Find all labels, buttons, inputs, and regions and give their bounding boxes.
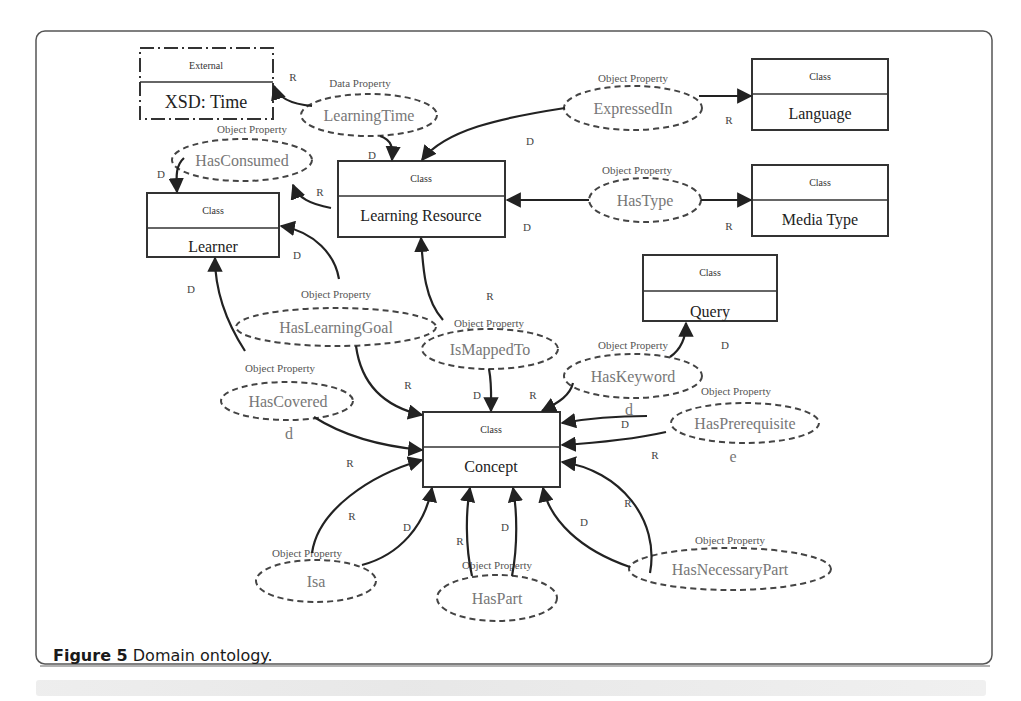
property-kind: Object Property [301,288,371,300]
class-stereotype: External [189,60,223,71]
property-name: Isa [307,573,326,590]
svg-text:R: R [346,457,354,469]
svg-text:D: D [580,516,588,528]
class-stereotype: Class [809,177,831,188]
svg-text:R: R [289,71,297,83]
property-kind: Object Property [462,559,532,571]
svg-text:d: d [285,425,293,442]
svg-text:D: D [473,389,481,401]
svg-text:R: R [725,220,733,232]
class-name: Media Type [782,211,858,229]
svg-text:R: R [486,290,494,302]
property-name: LearningTime [324,107,415,125]
property-kind: Data Property [329,77,391,89]
class-name: Learning Resource [360,207,481,225]
class-name: Query [690,303,730,321]
svg-text:D: D [721,339,729,351]
figure-caption: Figure 5 Domain ontology. [53,646,273,665]
figure-caption-text: Domain ontology. [128,646,273,665]
svg-text:D: D [157,168,165,180]
property-kind: Object Property [598,72,668,84]
svg-text:R: R [316,186,324,198]
svg-text:e: e [729,448,736,465]
svg-text:R: R [624,497,632,509]
property-name: HasCovered [248,393,327,410]
class-xsd-time: External XSD: Time [140,48,273,119]
property-name: HasKeyword [591,368,675,386]
class-media-type: Class Media Type [752,165,888,236]
property-kind: Object Property [695,534,765,546]
property-name: HasPart [472,590,523,607]
property-name: HasNecessaryPart [672,561,789,579]
svg-text:R: R [725,114,733,126]
property-name: HasPrerequisite [694,415,795,433]
class-query: Class Query [643,255,777,321]
property-name: IsMappedTo [450,341,531,359]
property-name: HasType [617,192,674,210]
svg-text:R: R [404,379,412,391]
property-kind: Object Property [701,385,771,397]
class-stereotype: Class [410,173,432,184]
class-stereotype: Class [699,267,721,278]
property-kind: Object Property [272,547,342,559]
property-kind: Object Property [598,339,668,351]
class-stereotype: Class [480,424,502,435]
svg-text:D: D [621,418,629,430]
property-name: ExpressedIn [593,100,672,118]
svg-text:D: D [526,135,534,147]
svg-text:D: D [293,249,301,261]
class-name: Learner [188,238,238,255]
class-language: Class Language [752,59,888,130]
svg-text:d: d [625,401,633,418]
property-kind: Object Property [602,164,672,176]
property-name: HasLearningGoal [279,319,393,337]
class-name: Language [788,105,851,123]
svg-text:R: R [348,510,356,522]
svg-text:D: D [187,283,195,295]
svg-text:R: R [456,535,464,547]
ontology-diagram: External XSD: Time Class Learner Class L… [0,0,1021,701]
svg-text:D: D [523,221,531,233]
svg-text:R: R [651,449,659,461]
svg-text:D: D [403,521,411,533]
property-kind: Object Property [217,123,287,135]
property-name: HasConsumed [195,152,288,169]
figure-page: External XSD: Time Class Learner Class L… [0,0,1021,701]
class-name: XSD: Time [165,92,248,112]
class-learning-resource: Class Learning Resource [338,161,505,237]
property-kind: Object Property [454,317,524,329]
class-concept: Class Concept [423,412,560,487]
class-learner: Class Learner [147,193,279,257]
svg-text:R: R [529,389,537,401]
svg-text:D: D [501,521,509,533]
class-stereotype: Class [202,205,224,216]
svg-text:D: D [368,149,376,161]
figure-caption-label: Figure 5 [53,646,128,665]
class-stereotype: Class [809,71,831,82]
property-kind: Object Property [245,362,315,374]
class-name: Concept [464,458,518,476]
